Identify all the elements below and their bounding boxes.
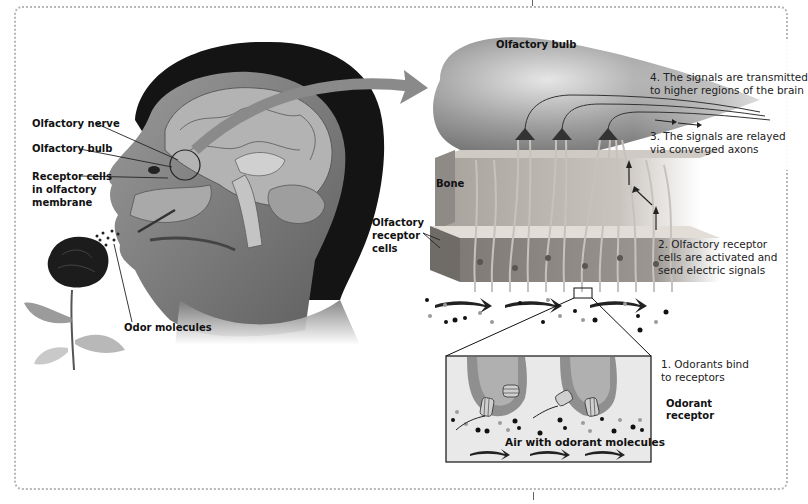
label-receptor-cells-line1: Receptor cells	[32, 171, 112, 183]
step-4-line1: 4. The signals are transmitted	[650, 71, 808, 84]
label-odor-molecules: Odor molecules	[124, 322, 212, 334]
step-2-line2: cells are activated and	[658, 251, 777, 264]
label-olfactory-receptor-cells-line1: Olfactory	[372, 217, 424, 229]
label-olfactory-bulb-left: Olfactory bulb	[32, 143, 112, 155]
label-olfactory-receptor-cells-line2: receptor	[372, 230, 420, 242]
rose-illustration	[24, 237, 125, 370]
step-1-line1: 1. Odorants bind	[661, 358, 749, 371]
label-odorant-receptor-line2: receptor	[666, 410, 714, 422]
step-1-line2: to receptors	[661, 371, 725, 384]
label-receptor-cells-line2: in olfactory	[32, 184, 96, 196]
label-air-with-odorant: Air with odorant molecules	[505, 436, 665, 448]
step-2-line1: 2. Olfactory receptor	[658, 238, 767, 251]
step-4-line2: to higher regions of the brain	[650, 84, 804, 97]
step-2-line3: send electric signals	[658, 264, 765, 277]
air-flow	[425, 298, 669, 333]
step-3-line1: 3. The signals are relayed	[650, 130, 786, 143]
label-olfactory-bulb-right: Olfactory bulb	[496, 39, 576, 51]
label-olfactory-nerve: Olfactory nerve	[32, 118, 120, 130]
step-3-line2: via converged axons	[650, 143, 759, 156]
label-bone: Bone	[436, 178, 464, 190]
label-receptor-cells-line3: membrane	[32, 197, 92, 209]
label-odorant-receptor-line1: Odorant	[666, 398, 712, 410]
label-olfactory-receptor-cells-line3: cells	[372, 243, 398, 255]
